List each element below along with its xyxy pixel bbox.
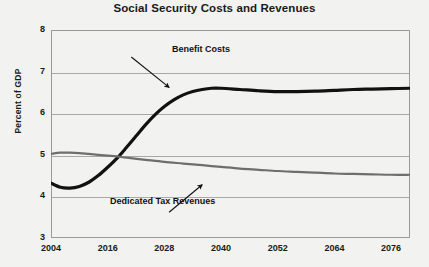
x-tick-label: 2076 [366,243,416,253]
annotation-benefit-costs: Benefit Costs [172,44,230,54]
x-tick-label: 2028 [139,243,189,253]
plot-area [51,30,410,238]
gridline [52,197,409,198]
x-tick-label: 2040 [196,243,246,253]
y-tick-label: 6 [19,107,45,117]
annotation-dedicated-tax-revenues: Dedicated Tax Revenues [110,196,215,206]
chart-container: Social Security Costs and Revenues Perce… [0,0,429,267]
y-tick-label: 5 [19,149,45,159]
x-tick-label: 2004 [26,243,76,253]
gridline [52,156,409,157]
x-tick-label: 2016 [83,243,133,253]
x-tick-label: 2052 [253,243,303,253]
chart-title: Social Security Costs and Revenues [0,2,429,14]
gridline [52,114,409,115]
y-tick-label: 4 [19,190,45,200]
y-tick-label: 3 [19,232,45,242]
gridline [52,73,409,74]
x-tick-label: 2064 [309,243,359,253]
y-tick-label: 7 [19,66,45,76]
y-tick-label: 8 [19,24,45,34]
